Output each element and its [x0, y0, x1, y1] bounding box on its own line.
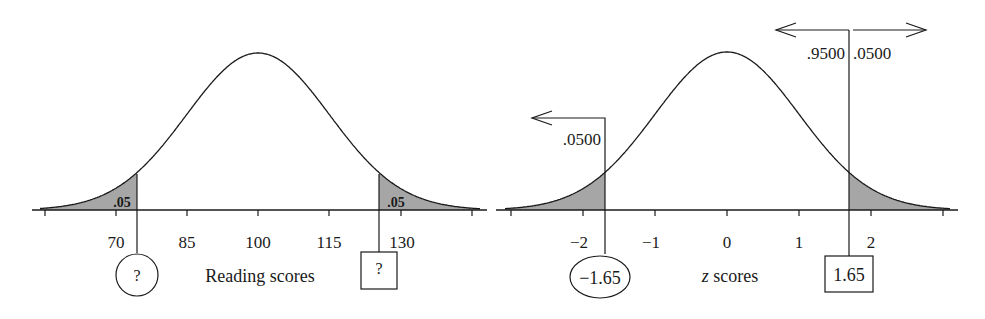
- right-upper-cutoff-label: 1.65: [833, 265, 865, 285]
- left-lower-area-label: .05: [113, 195, 131, 210]
- right-x-axis-title-rest: scores: [709, 266, 758, 286]
- right-axis-ticks: [511, 210, 943, 216]
- right-tick-label-neg2: −2: [570, 233, 588, 252]
- left-upper-cutoff-label: ?: [375, 260, 382, 277]
- left-tick-label-100: 100: [245, 233, 271, 252]
- right-tick-label-0: 0: [723, 233, 732, 252]
- right-tick-label-1: 1: [795, 233, 804, 252]
- left-normal-curve: [40, 53, 480, 209]
- figure-canvas: 70 85 100 115 130 .05 ? .05 ? Reading sc…: [0, 0, 985, 319]
- right-tick-label-2: 2: [867, 233, 876, 252]
- left-upper-area-label: .05: [387, 195, 405, 210]
- left-tick-label-70: 70: [108, 233, 125, 252]
- left-axis-ticks: [45, 210, 472, 216]
- right-tick-label-neg1: −1: [642, 233, 660, 252]
- right-upper-tail-shade: [849, 172, 950, 210]
- left-chart: 70 85 100 115 130 .05 ? .05 ? Reading sc…: [32, 53, 487, 296]
- right-lower-cutoff-label: −1.65: [579, 268, 621, 288]
- right-lower-tail-shade: [505, 172, 605, 210]
- left-tick-label-85: 85: [179, 233, 196, 252]
- left-tick-label-130: 130: [389, 233, 415, 252]
- right-x-axis-title-z: z: [701, 266, 709, 286]
- right-x-axis-title: z scores: [701, 266, 759, 286]
- left-tick-label-115: 115: [317, 233, 342, 252]
- right-chart: −2 −1 0 1 2 .0500 −1.65 .9500 .0500 1.65…: [496, 23, 958, 298]
- left-x-axis-title: Reading scores: [205, 266, 314, 286]
- left-lower-cutoff-label: ?: [133, 267, 140, 284]
- right-upper-right-label: .0500: [853, 44, 891, 63]
- right-lower-arrow-label: .0500: [563, 130, 601, 149]
- right-upper-left-label: .9500: [807, 44, 845, 63]
